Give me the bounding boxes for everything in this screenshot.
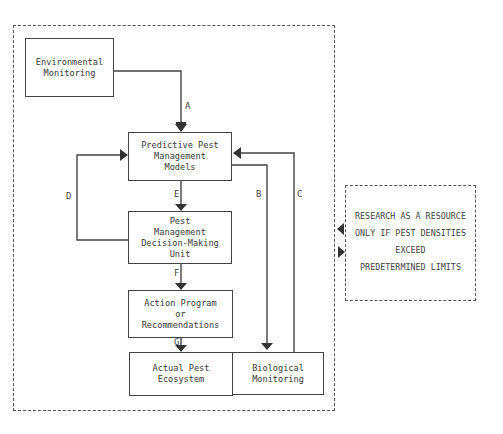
node-decision-unit: Pest Management Decision-Making Unit [128, 211, 232, 264]
edge-label-c: C [297, 189, 302, 199]
edge-label-e: E [174, 189, 179, 199]
edge-label-b: B [256, 189, 261, 199]
node-biological-monitoring: Biological Monitoring [232, 352, 324, 395]
edge-label-d: D [66, 191, 71, 201]
edge-label-a: A [185, 101, 190, 111]
node-predictive-models: Predictive Pest Management Models [128, 132, 232, 181]
node-action-program: Action Program or Recommendations [128, 290, 233, 338]
edge-label-g: G [174, 337, 179, 347]
node-environmental-monitoring: Environmental Monitoring [25, 38, 114, 97]
node-actual-pest-ecosystem: Actual Pest Ecosystem [129, 352, 233, 396]
edge-label-f: F [174, 268, 179, 278]
